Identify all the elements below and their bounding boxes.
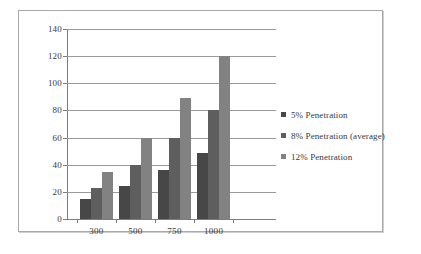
y-tick-mark: [63, 219, 67, 220]
y-tick-mark: [63, 56, 67, 57]
y-tick-mark: [63, 83, 67, 84]
x-tick-mark: [77, 219, 78, 223]
y-tick-label: 120: [48, 51, 62, 61]
y-axis-line: [67, 29, 68, 219]
bar-group: [197, 29, 230, 219]
bar[interactable]: [102, 172, 113, 220]
y-tick-label: 20: [53, 187, 62, 197]
y-tick-label: 140: [48, 24, 62, 34]
chart-legend: 5% Penetration8% Penetration (average)12…: [281, 109, 399, 172]
bar[interactable]: [158, 170, 169, 219]
bar-group: [119, 29, 152, 219]
gridline: [67, 219, 276, 220]
x-tick-label: 1000: [204, 226, 223, 236]
y-tick-mark: [63, 110, 67, 111]
bar[interactable]: [219, 56, 230, 219]
legend-swatch-icon: [281, 154, 286, 159]
x-tick-label: 750: [167, 226, 181, 236]
y-tick-mark: [63, 29, 67, 30]
x-tick-mark: [116, 219, 117, 223]
bar[interactable]: [91, 188, 102, 219]
legend-item[interactable]: 5% Penetration: [281, 109, 399, 120]
x-tick-mark: [194, 219, 195, 223]
bar[interactable]: [130, 165, 141, 219]
y-tick-label: 80: [53, 105, 62, 115]
bar[interactable]: [169, 138, 180, 219]
bar[interactable]: [141, 138, 152, 219]
bar[interactable]: [119, 186, 130, 219]
y-tick-label: 100: [48, 78, 62, 88]
legend-swatch-icon: [281, 112, 286, 117]
legend-label: 8% Penetration (average): [291, 131, 385, 141]
chart-frame: 020406080100120140 3005007501000 5% Pene…: [18, 10, 383, 232]
y-tick-label: 40: [53, 160, 62, 170]
bar[interactable]: [80, 199, 91, 219]
legend-label: 5% Penetration: [291, 110, 348, 120]
y-tick-label: 0: [57, 214, 62, 224]
bar[interactable]: [180, 98, 191, 219]
bar-group: [158, 29, 191, 219]
legend-item[interactable]: 12% Penetration: [281, 151, 399, 162]
bar[interactable]: [208, 110, 219, 219]
x-tick-mark: [233, 219, 234, 223]
plot-area: 020406080100120140 3005007501000: [67, 29, 276, 219]
bar-group: [80, 29, 113, 219]
legend-item[interactable]: 8% Penetration (average): [281, 130, 399, 141]
x-tick-label: 300: [89, 226, 103, 236]
y-tick-mark: [63, 165, 67, 166]
legend-swatch-icon: [281, 133, 286, 138]
y-tick-label: 60: [53, 133, 62, 143]
y-tick-mark: [63, 138, 67, 139]
x-tick-label: 500: [128, 226, 142, 236]
bar[interactable]: [197, 153, 208, 220]
legend-label: 12% Penetration: [291, 152, 352, 162]
x-tick-mark: [155, 219, 156, 223]
y-tick-mark: [63, 192, 67, 193]
